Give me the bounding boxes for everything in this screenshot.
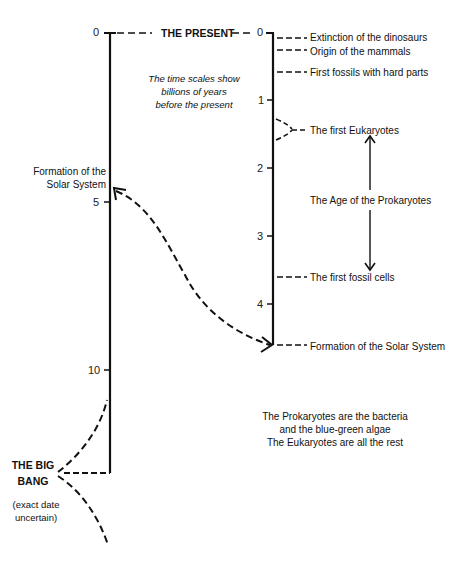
footnote: The Prokaryotes are the bacteria and the… (260, 410, 410, 449)
note-line-3: before the present (138, 98, 250, 111)
left-tick-label-10: 10 (88, 364, 100, 376)
left-solar-system-label: Formation of the Solar System (0, 165, 106, 191)
footnote-line-1: The Prokaryotes are the bacteria (260, 410, 410, 423)
event-dash-eukaryotes-lower (276, 130, 292, 140)
note-line-1: The time scales show (138, 72, 250, 85)
right-tick-label-4: 4 (257, 298, 263, 310)
uncertain-line-2: uncertain) (8, 511, 64, 524)
left-solar-line-1: Formation of the (0, 165, 106, 178)
big-bang-line-2: BANG (10, 473, 56, 489)
footnote-line-3: The Eukaryotes are all the rest (260, 436, 410, 449)
right-tick-label-0: 0 (257, 26, 263, 38)
right-tick-label-3: 3 (257, 230, 263, 242)
solar-arrowhead-left (114, 188, 126, 200)
big-bang-line-1: THE BIG (10, 457, 56, 473)
event-dash-eukaryotes-upper (276, 119, 292, 129)
left-solar-line-2: Solar System (0, 178, 106, 191)
big-bang-upper-curve (58, 400, 107, 472)
footnote-line-2: and the blue-green algae (260, 423, 410, 436)
note-line-2: billions of years (138, 85, 250, 98)
event-label-solar-system: Formation of the Solar System (310, 340, 445, 353)
event-label-hard-parts: First fossils with hard parts (310, 66, 428, 79)
right-tick-label-2: 2 (257, 162, 263, 174)
right-tick-label-1: 1 (258, 94, 264, 106)
event-label-dinosaurs: Extinction of the dinosaurs (310, 31, 427, 44)
left-tick-label-0: 0 (93, 26, 99, 38)
event-label-mammals: Origin of the mammals (310, 45, 411, 58)
event-label-eukaryotes: The first Eukaryotes (310, 124, 399, 137)
uncertain-line-1: (exact date (8, 498, 64, 511)
solar-system-connector-curve (116, 191, 270, 345)
age-of-prokaryotes-label: The Age of the Prokaryotes (310, 194, 431, 207)
big-bang-uncertain-note: (exact date uncertain) (8, 498, 64, 524)
event-label-fossil-cells: The first fossil cells (310, 271, 394, 284)
left-tick-label-5: 5 (93, 196, 99, 208)
time-scale-note: The time scales show billions of years b… (138, 72, 250, 111)
big-bang-lower-curve (58, 476, 108, 545)
present-label: THE PRESENT (161, 27, 235, 40)
big-bang-label: THE BIG BANG (10, 457, 56, 489)
